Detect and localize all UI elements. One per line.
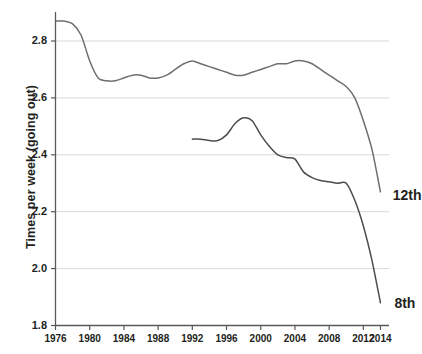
x-axis-ticks bbox=[56, 326, 381, 331]
gridlines bbox=[56, 41, 390, 269]
x-axis-tick-label: 2014 bbox=[358, 334, 402, 344]
series-line-12th bbox=[56, 21, 381, 192]
data-series-group bbox=[56, 21, 381, 303]
series-label-8th: 8th bbox=[394, 296, 415, 310]
y-axis-ticks bbox=[51, 41, 56, 326]
y-axis-tick-label: 2.2 bbox=[13, 206, 47, 217]
y-axis-tick-label: 1.8 bbox=[13, 320, 47, 331]
y-axis-title: Times per week (going out) bbox=[24, 52, 38, 282]
series-line-8th bbox=[192, 118, 380, 303]
series-label-12th: 12th bbox=[393, 188, 422, 202]
y-axis-tick-label: 2.6 bbox=[13, 92, 47, 103]
y-axis-tick-label: 2.8 bbox=[13, 35, 47, 46]
y-axis-tick-label: 2.0 bbox=[13, 263, 47, 274]
y-axis-tick-label: 2.4 bbox=[13, 149, 47, 160]
axis-lines bbox=[56, 12, 390, 326]
